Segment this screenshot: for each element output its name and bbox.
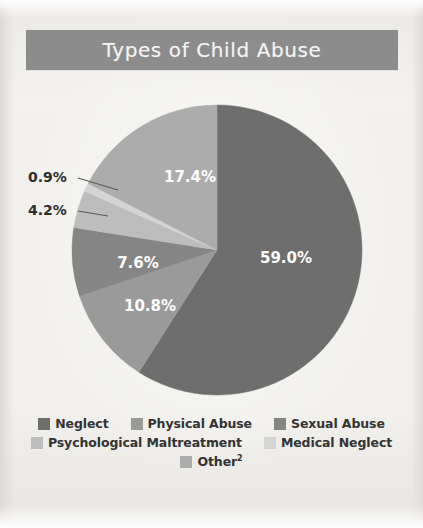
legend-swatch-other (180, 456, 192, 468)
legend-label-psychological-maltreatment: Psychological Maltreatment (48, 435, 242, 450)
slice-value-physical-abuse: 10.8% (124, 297, 176, 315)
page-title: Types of Child Abuse (103, 38, 322, 62)
legend-item-sexual-abuse[interactable]: Sexual Abuse (274, 416, 385, 431)
slice-value-neglect: 59.0% (260, 249, 312, 267)
slice-value-sexual-abuse: 7.6% (117, 254, 159, 272)
legend-swatch-sexual-abuse (274, 418, 286, 430)
legend-footnote-marker: 2 (237, 454, 242, 463)
legend-label-physical-abuse: Physical Abuse (148, 416, 252, 431)
legend-label-sexual-abuse: Sexual Abuse (291, 416, 385, 431)
legend-swatch-neglect (38, 418, 50, 430)
callout-value-medical-neglect: 0.9% (28, 169, 67, 185)
legend-swatch-medical-neglect (264, 437, 276, 449)
legend-item-medical-neglect[interactable]: Medical Neglect (264, 435, 392, 450)
legend-label-neglect: Neglect (55, 416, 108, 431)
legend-swatch-physical-abuse (131, 418, 143, 430)
legend-row: Other2 (0, 454, 423, 469)
callout-value-psychological-maltreatment: 4.2% (28, 202, 67, 218)
scan-edge-bottom (0, 504, 423, 528)
legend-row: Psychological MaltreatmentMedical Neglec… (0, 435, 423, 450)
chart-legend: NeglectPhysical AbuseSexual AbusePsychol… (0, 416, 423, 469)
legend-row: NeglectPhysical AbuseSexual Abuse (0, 416, 423, 431)
legend-item-psychological-maltreatment[interactable]: Psychological Maltreatment (31, 435, 242, 450)
legend-label-other: Other2 (197, 454, 242, 469)
pie-chart: 59.0% 10.8% 7.6% 17.4% 0.9% 4.2% (0, 78, 423, 414)
pie-chart-svg: 59.0% 10.8% 7.6% 17.4% 0.9% 4.2% (0, 78, 423, 414)
slice-value-other: 17.4% (164, 168, 216, 186)
legend-item-physical-abuse[interactable]: Physical Abuse (131, 416, 252, 431)
chart-page: Types of Child Abuse 59.0% 10.8% 7.6% (0, 0, 423, 528)
chart-title-banner: Types of Child Abuse (26, 30, 398, 70)
legend-item-other[interactable]: Other2 (180, 454, 242, 469)
scan-edge-top (0, 0, 423, 18)
pie-slices (72, 105, 362, 395)
legend-swatch-psychological-maltreatment (31, 437, 43, 449)
legend-label-medical-neglect: Medical Neglect (281, 435, 392, 450)
legend-item-neglect[interactable]: Neglect (38, 416, 108, 431)
